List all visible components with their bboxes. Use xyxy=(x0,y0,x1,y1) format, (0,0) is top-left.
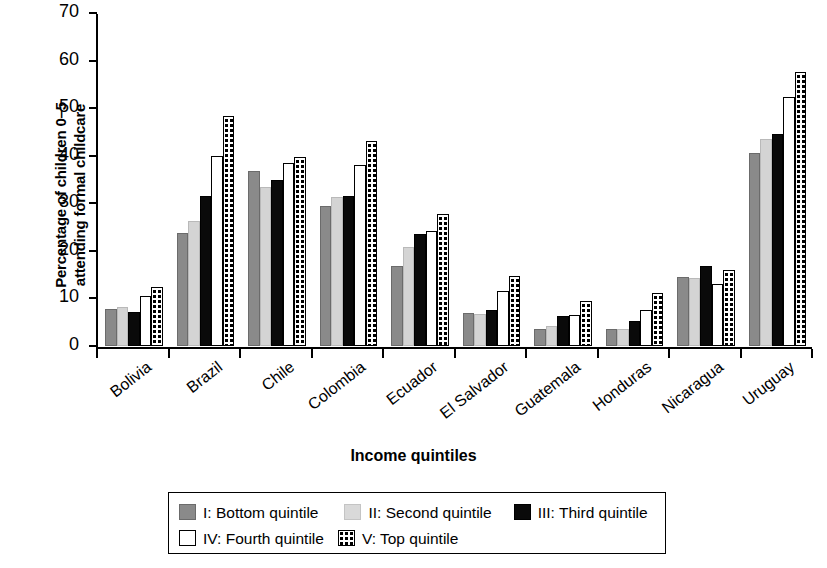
legend-item-third-quintile: III: Third quintile xyxy=(514,504,648,521)
bar-group-bolivia xyxy=(105,13,163,346)
bar-chart-figure: Percentage of children 0–5 attending for… xyxy=(0,0,827,568)
bar xyxy=(652,293,664,346)
y-tick-label-70: 70 xyxy=(59,1,79,21)
x-tick-8 xyxy=(668,349,670,358)
y-tick-30: 30 xyxy=(89,202,97,204)
bar-group-uruguay xyxy=(749,13,807,346)
y-tick-10: 10 xyxy=(89,297,97,299)
bar xyxy=(474,314,486,346)
bar xyxy=(151,287,163,346)
bar xyxy=(569,315,581,346)
y-tick-70: 70 xyxy=(89,12,97,14)
legend-swatch-bottom-quintile xyxy=(179,504,196,520)
legend-swatch-fourth-quintile xyxy=(179,530,196,546)
bar xyxy=(629,321,641,346)
bar xyxy=(463,313,475,346)
bar xyxy=(248,171,260,346)
bar xyxy=(546,326,558,346)
bar-group-honduras xyxy=(606,13,664,346)
y-tick-60: 60 xyxy=(89,60,97,62)
y-tick-0: 0 xyxy=(89,345,97,347)
legend-swatch-top-quintile xyxy=(338,530,355,546)
bar xyxy=(772,134,784,346)
bar xyxy=(677,277,689,346)
bar xyxy=(640,310,652,346)
bar xyxy=(177,233,189,346)
bar xyxy=(437,214,449,346)
bar xyxy=(366,141,378,346)
x-tick-5 xyxy=(454,349,456,358)
bar-group-brazil xyxy=(177,13,235,346)
x-tick-4 xyxy=(382,349,384,358)
chart-legend: I: Bottom quintile II: Second quintile I… xyxy=(168,492,666,554)
bar xyxy=(391,266,403,346)
y-tick-label-30: 30 xyxy=(59,191,79,211)
y-tick-label-0: 0 xyxy=(69,334,79,354)
x-tick-3 xyxy=(311,349,313,358)
bar xyxy=(211,156,223,346)
bar xyxy=(557,316,569,346)
bar xyxy=(223,116,235,346)
bar xyxy=(283,163,295,346)
legend-row-1: I: Bottom quintile II: Second quintile I… xyxy=(179,499,657,525)
bar xyxy=(509,276,521,346)
bar xyxy=(117,307,129,346)
bar-group-el-salvador xyxy=(463,13,521,346)
y-tick-40: 40 xyxy=(89,155,97,157)
bar xyxy=(723,270,735,346)
bar xyxy=(580,301,592,346)
x-tick-9 xyxy=(740,349,742,358)
y-tick-label-10: 10 xyxy=(59,286,79,306)
legend-item-second-quintile: II: Second quintile xyxy=(344,504,491,521)
bar xyxy=(749,153,761,346)
bar xyxy=(403,247,415,346)
y-tick-label-20: 20 xyxy=(59,239,79,259)
bar xyxy=(128,312,140,346)
bar xyxy=(783,97,795,346)
bar xyxy=(534,329,546,346)
bar xyxy=(140,296,152,346)
bar xyxy=(260,187,272,346)
legend-swatch-second-quintile xyxy=(344,504,361,520)
y-tick-label-40: 40 xyxy=(59,144,79,164)
bar xyxy=(188,221,200,346)
bar-group-colombia xyxy=(320,13,378,346)
bar xyxy=(105,309,117,346)
bar xyxy=(606,329,618,346)
x-tick-10 xyxy=(811,349,813,358)
bar xyxy=(486,310,498,346)
bar-group-nicaragua xyxy=(677,13,735,346)
bar-group-chile xyxy=(248,13,306,346)
x-tick-2 xyxy=(239,349,241,358)
bar xyxy=(320,206,332,346)
bar xyxy=(795,72,807,346)
bar xyxy=(760,139,772,346)
legend-item-fourth-quintile: IV: Fourth quintile xyxy=(179,530,324,547)
bar xyxy=(200,196,212,346)
legend-label-second-quintile: II: Second quintile xyxy=(368,504,491,521)
y-tick-label-50: 50 xyxy=(59,96,79,116)
bar xyxy=(343,196,355,346)
x-axis-title: Income quintiles xyxy=(0,447,827,465)
plot-area: 010203040506070 xyxy=(96,14,811,348)
legend-label-third-quintile: III: Third quintile xyxy=(538,504,648,521)
x-tick-0 xyxy=(96,349,98,358)
legend-swatch-third-quintile xyxy=(514,504,531,520)
bar xyxy=(426,231,438,346)
legend-item-top-quintile: V: Top quintile xyxy=(338,530,459,547)
bar xyxy=(497,291,509,346)
bar xyxy=(414,234,426,346)
bar xyxy=(617,329,629,346)
x-tick-6 xyxy=(525,349,527,358)
bar-group-guatemala xyxy=(534,13,592,346)
bar-group-ecuador xyxy=(391,13,449,346)
x-tick-7 xyxy=(597,349,599,358)
bar xyxy=(271,180,283,346)
legend-label-fourth-quintile: IV: Fourth quintile xyxy=(203,530,324,547)
y-tick-20: 20 xyxy=(89,250,97,252)
legend-label-top-quintile: V: Top quintile xyxy=(362,530,459,547)
y-tick-50: 50 xyxy=(89,107,97,109)
bar xyxy=(354,165,366,346)
bar xyxy=(294,157,306,346)
legend-item-bottom-quintile: I: Bottom quintile xyxy=(179,504,318,521)
